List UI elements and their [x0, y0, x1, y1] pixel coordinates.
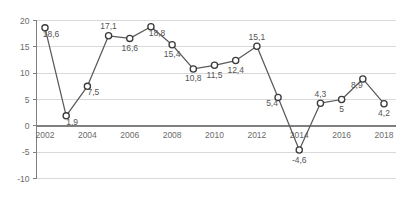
x-tick-label: 2006 — [120, 130, 139, 140]
data-point-label: 16,6 — [121, 43, 138, 53]
data-point-marker — [296, 147, 302, 153]
data-point-label: 10,8 — [185, 73, 202, 83]
y-tick-label: -10 — [17, 174, 30, 184]
x-axis-tick-labels: 200220042006200820102012201420162018 — [36, 130, 394, 140]
x-tick-label: 2004 — [78, 130, 97, 140]
data-point-marker — [254, 43, 260, 49]
axes — [33, 21, 37, 179]
x-tick-label: 2018 — [375, 130, 394, 140]
data-point-label: 4,2 — [378, 108, 390, 118]
x-tick-label: 2016 — [332, 130, 351, 140]
data-point-marker — [381, 101, 387, 107]
x-tick-label: 2002 — [36, 130, 55, 140]
y-tick-label: 20 — [20, 16, 30, 26]
data-point-marker — [190, 66, 196, 72]
data-point-label: 7,5 — [87, 87, 99, 97]
data-point-label: 17,1 — [100, 21, 117, 31]
data-point-marker — [169, 42, 175, 48]
data-point-label: 1,9 — [66, 117, 78, 127]
data-point-marker — [233, 57, 239, 63]
data-point-label: 4,3 — [315, 89, 327, 99]
y-axis-tick-labels: 20151050-5-10 — [17, 16, 30, 184]
data-point-label: 5 — [339, 104, 344, 114]
line-chart: 20151050-5-10 20022004200620082010201220… — [0, 0, 407, 201]
y-tick-label: 10 — [20, 68, 30, 78]
x-tick-label: 2008 — [163, 130, 182, 140]
y-tick-label: -5 — [22, 147, 30, 157]
chart-canvas: 20151050-5-10 20022004200620082010201220… — [0, 0, 407, 201]
y-tick-label: 5 — [25, 95, 30, 105]
data-point-label: 18,8 — [149, 28, 166, 38]
data-point-marker — [105, 33, 111, 39]
data-point-label: 15,1 — [249, 32, 266, 42]
data-point-labels: 18,61,97,517,116,618,815,410,811,512,415… — [43, 21, 390, 164]
data-point-label: 8,9 — [351, 80, 363, 90]
data-point-marker — [127, 35, 133, 41]
data-point-label: 12,4 — [227, 65, 244, 75]
data-point-label: 5,4 — [266, 98, 278, 108]
x-tick-label: 2010 — [205, 130, 224, 140]
data-point-marker — [317, 100, 323, 106]
data-point-label: 15,4 — [164, 49, 181, 59]
data-point-label: 11,5 — [207, 70, 223, 80]
data-point-marker — [211, 62, 217, 68]
x-tick-label: 2012 — [247, 130, 266, 140]
data-point-label: -4,6 — [292, 155, 307, 165]
y-tick-label: 15 — [20, 42, 30, 52]
data-point-label: 18,6 — [43, 29, 60, 39]
y-tick-label: 0 — [25, 121, 30, 131]
data-point-marker — [339, 96, 345, 102]
